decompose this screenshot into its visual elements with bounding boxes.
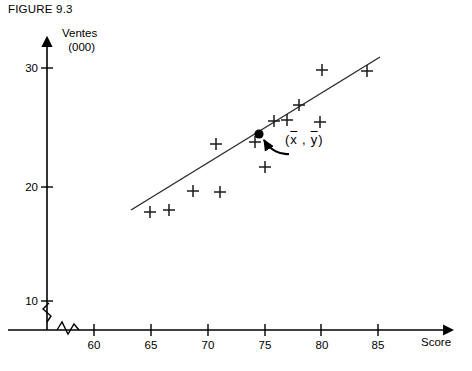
figure-container: FIGURE 9.3 Ventes (000) Score 10 20 30 6… [0,0,472,371]
scatter-points-group [144,64,373,218]
mean-point [254,129,263,138]
scatter-point [163,204,175,216]
mean-point-arrow-icon [264,140,289,154]
x-axis-break-icon [57,322,79,334]
scatter-plot-canvas [0,0,472,371]
scatter-point [316,64,328,76]
scatter-point [214,186,226,198]
scatter-point [281,114,293,126]
scatter-point [187,185,199,197]
scatter-point [259,161,271,173]
scatter-point [144,206,156,218]
scatter-point [314,116,326,128]
scatter-point [210,138,222,150]
